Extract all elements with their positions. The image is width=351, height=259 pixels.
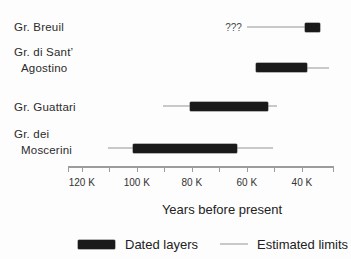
dated-layers-bar: [256, 63, 307, 72]
row-label-4: Gr. deiMoscerini: [14, 126, 72, 158]
x-axis-line: [68, 166, 333, 168]
row-label-1: Gr. Breuil: [14, 19, 64, 35]
dated-layers-bar: [305, 23, 320, 32]
axis-minor-tick: [68, 166, 69, 172]
axis-tick-label: 60 K: [225, 177, 269, 188]
dated-layers-swatch: [78, 240, 115, 249]
axis-tick-label: 40 K: [280, 177, 324, 188]
row-label-line: Moscerini: [14, 142, 72, 158]
dated-layers-bar: [190, 102, 267, 111]
axis-tick-label: 120 K: [60, 177, 104, 188]
dated-layers-label: Dated layers: [125, 237, 198, 252]
axis-tick-label: 80 K: [170, 177, 214, 188]
row-label-line: Gr. dei: [14, 126, 72, 142]
row-label-line: Agostino: [14, 60, 73, 76]
estimated-limits-label: Estimated limits: [257, 237, 348, 252]
uncertainty-annotation: ???: [225, 22, 242, 33]
axis-major-tick: [247, 166, 248, 172]
x-axis-title: Years before present: [162, 202, 282, 217]
axis-major-tick: [82, 166, 83, 172]
dated-layers-bar: [133, 144, 238, 153]
axis-minor-tick: [219, 166, 220, 172]
axis-major-tick: [192, 166, 193, 172]
axis-tick-label: 100 K: [115, 177, 159, 188]
row-label-2: Gr. di Sant’Agostino: [14, 44, 73, 76]
axis-major-tick: [302, 166, 303, 172]
cave-chronology-figure: Gr. Breuil???Gr. di Sant’AgostinoGr. Gua…: [0, 0, 351, 259]
axis-minor-tick: [164, 166, 165, 172]
row-label-line: Gr. Guattari: [14, 99, 76, 115]
axis-minor-tick: [109, 166, 110, 172]
row-label-line: Gr. Breuil: [14, 19, 64, 35]
estimated-limits-swatch: [220, 243, 248, 245]
axis-minor-tick: [333, 166, 334, 172]
axis-major-tick: [137, 166, 138, 172]
row-label-line: Gr. di Sant’: [14, 44, 73, 60]
row-label-3: Gr. Guattari: [14, 99, 76, 115]
axis-minor-tick: [274, 166, 275, 172]
